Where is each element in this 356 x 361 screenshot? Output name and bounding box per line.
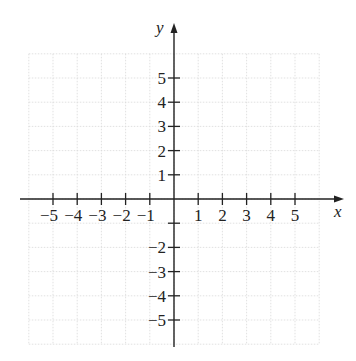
x-axis-label: x (333, 202, 342, 221)
x-tick-label: −3 (88, 206, 106, 225)
x-tick-label: −4 (64, 206, 83, 225)
y-axis-arrow-icon (171, 23, 178, 33)
y-tick-label: 1 (158, 166, 167, 185)
y-tick-label: −3 (148, 263, 166, 282)
x-tick-label: 2 (218, 206, 227, 225)
x-tick-label: −2 (113, 206, 131, 225)
y-tick-label: −5 (148, 311, 166, 330)
y-tick-label: 2 (158, 142, 167, 161)
y-tick-label: 4 (158, 93, 167, 112)
x-tick-label: 4 (267, 206, 276, 225)
x-tick-label: −1 (137, 206, 155, 225)
x-tick-label: −5 (40, 206, 58, 225)
x-tick-label: 1 (194, 206, 203, 225)
x-tick-label: 5 (291, 206, 300, 225)
y-axis-label: y (154, 18, 164, 37)
y-tick-label: 5 (158, 69, 167, 88)
y-tick-label: −2 (148, 238, 166, 257)
x-tick-label: 3 (242, 206, 251, 225)
axes (20, 23, 344, 347)
coordinate-plane: −5−4−3−2−11234554321−2−3−4−5 x y (0, 0, 356, 361)
y-tick-label: −4 (148, 287, 167, 306)
y-tick-label: 3 (158, 117, 167, 136)
